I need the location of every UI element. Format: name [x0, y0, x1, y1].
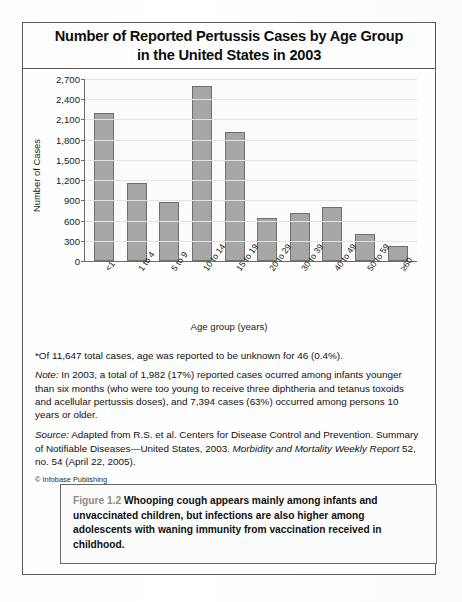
bar-5-to-9	[159, 202, 179, 261]
chart-area: Number of Cases 03006009001,2001,5001,80…	[23, 69, 435, 345]
figure-page: Number of Reported Pertussis Cases by Ag…	[0, 0, 462, 602]
figure-number-label: Figure 1.2	[73, 495, 121, 506]
notes-block: *Of 11,647 total cases, age was reported…	[23, 345, 435, 484]
y-tick-label: 2,400	[56, 94, 80, 105]
gridline	[85, 160, 417, 161]
y-axis-tick	[81, 160, 85, 161]
y-axis-tick	[81, 261, 85, 262]
y-axis-tick	[81, 200, 85, 201]
bar-series	[85, 79, 417, 261]
y-tick-label: 1,800	[56, 134, 80, 145]
y-axis-tick	[81, 221, 85, 222]
source-label: Source:	[35, 429, 69, 440]
y-tick-label: 0	[75, 256, 80, 267]
gridline	[85, 119, 417, 120]
source-journal: Morbidity and Mortality Weekly Report	[233, 443, 400, 454]
y-tick-label: 1,200	[56, 175, 80, 186]
x-tick-slot: 15 to 19	[224, 265, 244, 323]
copyright-line: © Infobase Publishing	[35, 475, 423, 484]
bar-1	[94, 113, 114, 261]
x-axis-tick-labels: <11 to 45 to 910 to 1415 to 1920 to 2930…	[84, 265, 417, 323]
chart-title-line-1: Number of Reported Pertussis Cases by Ag…	[55, 28, 404, 44]
gridline	[85, 140, 417, 141]
y-axis-tick	[81, 180, 85, 181]
gridline	[85, 200, 417, 201]
note-label: Note:	[35, 369, 59, 380]
y-axis-tick	[81, 79, 85, 80]
chart-title: Number of Reported Pertussis Cases by Ag…	[47, 27, 412, 64]
gridline	[85, 99, 417, 100]
gridline	[85, 180, 417, 181]
study-note: Note: In 2003, a total of 1,982 (17%) re…	[35, 368, 423, 421]
source-note: Source: Adapted from R.S. et al. Centers…	[35, 428, 423, 468]
x-tick-slot: 5 to 9	[159, 265, 179, 323]
y-tick-label: 900	[64, 195, 80, 206]
bar-10-to-14	[192, 86, 212, 261]
y-tick-label: 1,500	[56, 154, 80, 165]
plot-region	[84, 79, 417, 262]
x-tick-slot: 30 to 39	[289, 265, 309, 323]
gridline	[85, 221, 417, 222]
figure-frame: Number of Reported Pertussis Cases by Ag…	[22, 22, 436, 575]
note-body: In 2003, a total of 1,982 (17%) reported…	[35, 369, 404, 420]
gridline	[85, 79, 417, 80]
chart-title-band: Number of Reported Pertussis Cases by Ag…	[23, 23, 435, 69]
x-tick-slot: 10 to 14	[191, 265, 211, 323]
bar-20-to-29	[257, 218, 277, 261]
x-tick-slot: 40 to 49	[322, 265, 342, 323]
bar-40-to-49	[322, 207, 342, 261]
asterisk-note: *Of 11,647 total cases, age was reported…	[35, 349, 423, 362]
x-tick-slot: 1 to 4	[126, 265, 146, 323]
x-tick-slot: <1	[93, 265, 113, 323]
figure-caption: Figure 1.2 Whooping cough appears mainly…	[73, 494, 424, 552]
y-axis-tick	[81, 241, 85, 242]
y-tick-label: 2,700	[56, 74, 80, 85]
y-tick-label: 300	[64, 235, 80, 246]
bar-1-to-4	[127, 183, 147, 261]
y-axis-tick	[81, 119, 85, 120]
y-axis-title-text: Number of Cases	[31, 139, 42, 212]
x-tick-slot: ≥60	[388, 265, 408, 323]
figure-caption-box: Figure 1.2 Whooping cough appears mainly…	[60, 484, 437, 564]
x-axis-title: Age group (years)	[23, 321, 435, 332]
chart-title-line-2: in the United States in 2003	[137, 47, 321, 63]
y-tick-label: 2,100	[56, 114, 80, 125]
y-axis-tick	[81, 140, 85, 141]
y-axis-tick	[81, 99, 85, 100]
x-tick-slot: 50 to 59	[355, 265, 375, 323]
x-tick-slot: 20 to 29	[257, 265, 277, 323]
y-tick-label: 600	[64, 215, 80, 226]
y-axis-tick-labels: 03006009001,2001,5001,8002,1002,4002,700	[43, 69, 83, 261]
